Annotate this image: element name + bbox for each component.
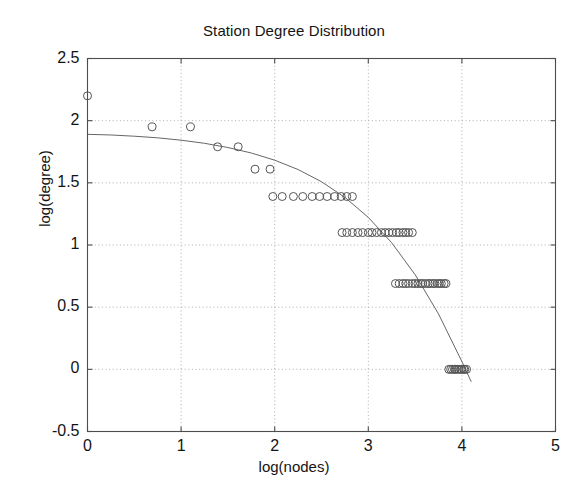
y-tick-label: 0.5: [34, 297, 80, 315]
y-axis-label: log(degree): [36, 109, 53, 269]
data-point-marker: [348, 193, 356, 201]
x-tick-label: 5: [541, 437, 571, 455]
data-point-marker: [308, 193, 316, 201]
data-points: [84, 92, 471, 374]
x-tick-label: 4: [447, 437, 477, 455]
data-point-marker: [186, 123, 194, 131]
y-tick-label: 0: [34, 359, 80, 377]
data-point-marker: [289, 193, 297, 201]
data-point-marker: [338, 229, 346, 237]
chart-figure: Station Degree Distribution -0.500.511.5…: [0, 0, 588, 495]
data-point-marker: [316, 193, 324, 201]
data-point-marker: [278, 193, 286, 201]
data-point-marker: [323, 193, 331, 201]
data-point-marker: [299, 193, 307, 201]
data-point-marker: [214, 143, 222, 151]
data-point-marker: [354, 229, 362, 237]
fit-curve: [88, 134, 472, 381]
grid-lines: [88, 59, 556, 432]
fitted-curve-path: [88, 134, 472, 381]
data-point-marker: [269, 193, 277, 201]
data-point-marker: [148, 123, 156, 131]
plot-area: [0, 0, 588, 495]
x-tick-label: 1: [166, 437, 196, 455]
y-tick-label: 2.5: [34, 49, 80, 67]
data-point-marker: [266, 165, 274, 173]
x-tick-label: 0: [73, 437, 103, 455]
x-axis-label: log(nodes): [0, 458, 588, 475]
x-tick-label: 2: [260, 437, 290, 455]
data-point-marker: [251, 165, 259, 173]
x-tick-label: 3: [353, 437, 383, 455]
data-point-marker: [373, 229, 381, 237]
